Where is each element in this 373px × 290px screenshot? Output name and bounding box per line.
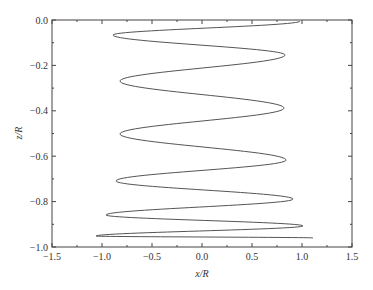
x-tick-label: −1.0	[93, 251, 111, 262]
axis-ticks	[52, 20, 352, 247]
x-tick-label: 0.5	[246, 251, 259, 262]
y-tick-labels: 0.0−0.2−0.4−0.6−0.8−1.0	[30, 15, 48, 253]
y-tick-label: −0.6	[30, 151, 48, 162]
y-tick-label: −0.4	[30, 105, 48, 116]
y-tick-label: 0.0	[36, 15, 49, 26]
x-tick-label: −0.5	[143, 251, 161, 262]
x-axis-label: x/R	[194, 268, 208, 279]
x-tick-label: 0.0	[196, 251, 209, 262]
x-tick-label: 1.0	[296, 251, 309, 262]
x-tick-labels: −1.5−1.0−0.50.00.51.01.5	[43, 251, 358, 262]
plot-frame	[52, 20, 352, 247]
y-tick-label: −0.2	[30, 60, 48, 71]
chart: −1.5−1.0−0.50.00.51.01.5 0.0−0.2−0.4−0.6…	[0, 0, 373, 290]
x-tick-label: 1.5	[346, 251, 359, 262]
y-tick-label: −1.0	[30, 242, 48, 253]
y-tick-label: −0.8	[30, 196, 48, 207]
y-axis-label: z/R	[13, 127, 24, 141]
trajectory-line	[96, 21, 313, 238]
x-tick-label: −1.5	[43, 251, 61, 262]
